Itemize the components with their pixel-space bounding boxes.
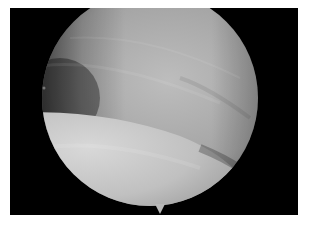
arthroscopic-view [10, 8, 298, 215]
scope-image-frame [10, 8, 298, 215]
scope-notch-marker [155, 204, 165, 214]
scope-circle [10, 8, 298, 215]
